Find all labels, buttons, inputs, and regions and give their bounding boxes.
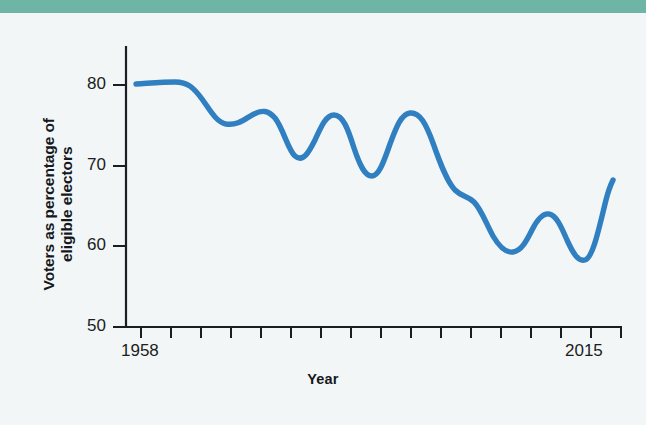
y-tick-label-70: 70 — [72, 155, 106, 175]
data-series-line — [136, 82, 613, 260]
x-tick-label-start: 1958 — [121, 341, 191, 361]
x-axis-title: Year — [0, 371, 646, 387]
x-tick-label-end: 2015 — [565, 341, 635, 361]
y-tick-label-60: 60 — [72, 235, 106, 255]
chart-figure: Voters as percentage of eligible elector… — [0, 0, 646, 425]
y-tick-marks — [113, 85, 126, 327]
y-tick-label-50: 50 — [72, 316, 106, 336]
y-tick-label-80: 80 — [72, 74, 106, 94]
line-chart-svg — [0, 0, 646, 425]
x-tick-marks — [141, 327, 621, 338]
plot-area: Voters as percentage of eligible elector… — [0, 0, 646, 425]
y-axis-title: Voters as percentage of eligible elector… — [40, 84, 77, 324]
